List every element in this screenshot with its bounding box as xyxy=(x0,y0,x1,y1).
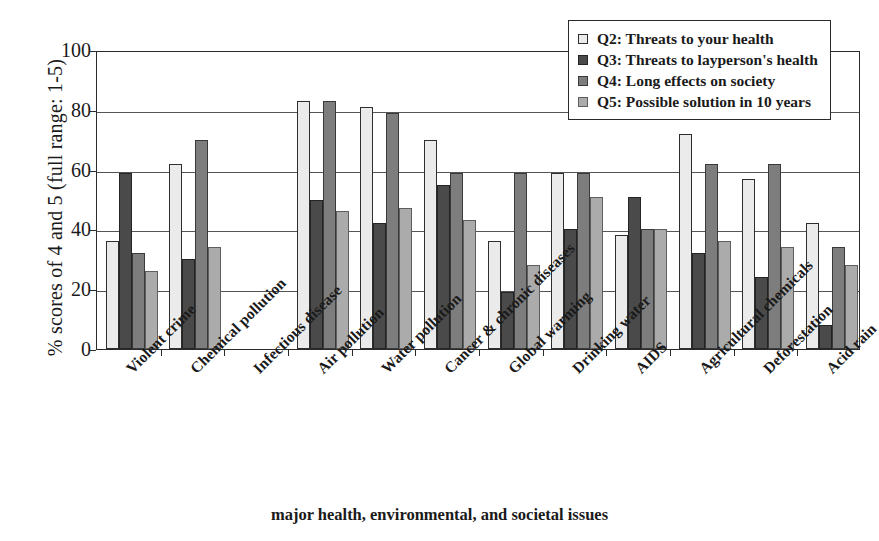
x-axis-title: major health, environmental, and societa… xyxy=(0,505,879,525)
bar xyxy=(692,253,705,349)
y-tick-mark xyxy=(89,230,96,231)
bar xyxy=(819,325,832,349)
bar-chart-figure: % scores of 4 and 5 (full range: 1-5) 02… xyxy=(0,0,879,541)
legend-label: Q5: Possible solution in 10 years xyxy=(597,93,811,111)
bar xyxy=(577,173,590,349)
bar xyxy=(119,173,132,349)
legend-label: Q3: Threats to layperson's health xyxy=(597,51,818,69)
y-tick-label: 100 xyxy=(31,40,91,60)
bar xyxy=(705,164,718,349)
y-tick-label: 60 xyxy=(31,160,91,180)
legend-item: Q2: Threats to your health xyxy=(578,28,818,49)
bar xyxy=(450,173,463,349)
y-tick-label: 80 xyxy=(31,100,91,120)
legend-swatch-q4-icon xyxy=(578,76,588,86)
bar xyxy=(768,164,781,349)
legend-item: Q5: Possible solution in 10 years xyxy=(578,91,818,112)
legend-swatch-q3-icon xyxy=(578,55,588,65)
bar xyxy=(514,173,527,349)
bar xyxy=(654,229,667,349)
y-tick-label: 0 xyxy=(31,339,91,359)
chart-legend: Q2: Threats to your healthQ3: Threats to… xyxy=(568,20,831,120)
y-tick-label: 20 xyxy=(31,279,91,299)
bar xyxy=(106,241,119,349)
bar xyxy=(679,134,692,349)
y-axis-title: % scores of 4 and 5 (full range: 1-5) xyxy=(44,48,67,368)
bar xyxy=(132,253,145,349)
bar xyxy=(373,223,386,349)
bar xyxy=(336,211,349,349)
legend-item: Q4: Long effects on society xyxy=(578,70,818,91)
y-tick-mark xyxy=(89,171,96,172)
bar xyxy=(386,113,399,349)
bar xyxy=(641,229,654,349)
bar xyxy=(590,197,603,349)
legend-swatch-q5-icon xyxy=(578,97,588,107)
bar-group xyxy=(352,52,416,349)
y-tick-mark xyxy=(89,111,96,112)
bar-group xyxy=(161,52,225,349)
y-tick-mark xyxy=(89,51,96,52)
y-tick-mark xyxy=(89,350,96,351)
legend-swatch-q2-icon xyxy=(578,34,588,44)
bar-group xyxy=(97,52,161,349)
bar xyxy=(195,140,208,349)
y-tick-mark xyxy=(89,290,96,291)
y-tick-label: 40 xyxy=(31,219,91,239)
legend-label: Q4: Long effects on society xyxy=(597,72,775,90)
bar xyxy=(399,208,412,349)
legend-item: Q3: Threats to layperson's health xyxy=(578,49,818,70)
legend-label: Q2: Threats to your health xyxy=(597,30,774,48)
bar xyxy=(832,247,845,349)
